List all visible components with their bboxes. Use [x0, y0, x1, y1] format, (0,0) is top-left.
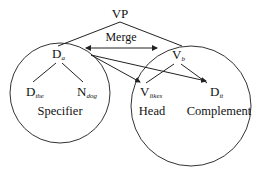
complement-label: Complement — [187, 104, 252, 118]
d-a-node: Da — [52, 46, 65, 62]
d-a-left-branch — [33, 63, 56, 82]
v-b-left-branch — [146, 64, 174, 83]
syntax-tree-diagram: VP Merge Da Dthe Ndog Specifier Vb Vlike… — [0, 0, 261, 171]
v-likes-node: Vlikes — [140, 84, 162, 100]
head-label: Head — [139, 104, 166, 118]
v-b-node: Vb — [172, 47, 185, 63]
merge-label: Merge — [105, 30, 136, 44]
arrow-da-to-dit — [91, 55, 206, 81]
d-the-node: Dthe — [26, 84, 44, 100]
arrow-da-to-vlikes — [91, 55, 140, 82]
vp-label: VP — [112, 6, 129, 21]
n-dog-node: Ndog — [77, 84, 97, 100]
d-a-right-branch — [62, 63, 83, 82]
d-it-node: Dit — [210, 84, 224, 100]
specifier-label: Specifier — [37, 104, 83, 118]
